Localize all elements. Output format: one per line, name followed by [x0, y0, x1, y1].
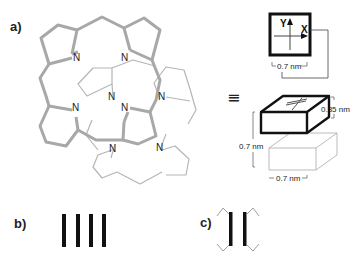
panel-label-c: c): [200, 215, 212, 230]
axis-y-label: Y: [280, 18, 287, 29]
top-view-square: Y X 0.7 nm: [270, 14, 328, 78]
block-height-label: 0.7 nm: [239, 142, 264, 151]
lower-block: [269, 133, 337, 170]
atom-n: N: [158, 91, 165, 102]
bar: [76, 214, 80, 247]
atom-n: N: [109, 143, 116, 154]
porphyrin-stacking-diagram: a) b) c): [0, 0, 358, 261]
top-view-width-label: 0.7 nm: [277, 62, 302, 71]
panel-b-stacked-bars: [62, 214, 106, 247]
block-stack: 0.35 nm 0.7 nm 0.7 nm: [239, 96, 350, 183]
atom-n: N: [156, 142, 163, 153]
atom-n: N: [121, 52, 128, 63]
panel-label-a: a): [10, 19, 22, 34]
panel-c-offset-bars: [217, 208, 259, 251]
block-width-label: 0.7 nm: [276, 174, 301, 183]
bottom-porphyrin-layer: [78, 60, 196, 184]
top-porphyrin-layer: [40, 17, 160, 146]
atom-n: N: [108, 91, 115, 102]
block-thickness-label: 0.35 nm: [321, 105, 350, 114]
atom-n: N: [73, 52, 80, 63]
bar: [102, 214, 106, 247]
panel-label-b: b): [14, 216, 26, 231]
equivalence-symbol: ≡: [227, 88, 240, 107]
atom-n: N: [121, 102, 128, 113]
atom-n: N: [72, 102, 79, 113]
bar: [89, 214, 93, 247]
axis-x-label: X: [301, 24, 308, 35]
bar: [62, 214, 66, 247]
